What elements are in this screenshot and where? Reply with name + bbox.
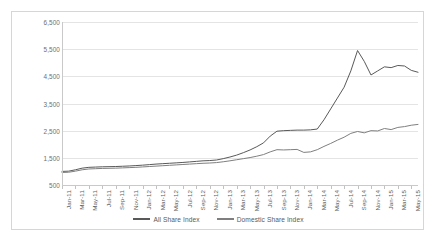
x-axis-tick-label: Jul-11 — [105, 190, 112, 207]
x-axis-tick-label: Nov-13 — [293, 190, 300, 211]
x-axis-tick-label: May-14 — [333, 190, 340, 211]
series-line-1 — [62, 51, 418, 172]
x-axis-tick — [116, 186, 117, 189]
x-axis-tick-label: May-13 — [253, 190, 260, 211]
x-axis-tick — [169, 186, 170, 189]
x-axis-tick — [317, 186, 318, 189]
x-axis-tick — [62, 186, 63, 189]
x-axis-tick — [371, 186, 372, 189]
x-axis-tick-label: Sep-13 — [280, 190, 287, 211]
x-axis-tick-label: May-12 — [172, 190, 179, 211]
y-axis: 6,5005,5004,5003,5002,5001,500500 — [18, 12, 60, 231]
x-axis-tick — [250, 186, 251, 189]
x-axis-tick — [102, 186, 103, 189]
x-axis-tick — [75, 186, 76, 189]
x-axis-tick — [358, 186, 359, 189]
x-axis-tick-label: Mar-12 — [159, 190, 166, 210]
chart-legend: All Share IndexDomestic Share Index — [12, 212, 425, 226]
y-axis-tick-label: 5,500 — [22, 46, 60, 53]
x-axis-tick-label: Jul-14 — [347, 190, 354, 207]
x-axis-tick-label: Sep-11 — [118, 190, 125, 210]
y-axis-tick-label: 3,500 — [22, 100, 60, 107]
x-axis-tick — [304, 186, 305, 189]
legend-line-icon — [217, 218, 234, 220]
y-axis-line — [62, 22, 63, 186]
x-axis-tick-label: Jul-12 — [186, 190, 193, 207]
x-axis-tick — [129, 186, 130, 189]
x-axis-tick — [183, 186, 184, 189]
x-axis-tick — [331, 186, 332, 189]
y-axis-tick-label: 4,500 — [22, 73, 60, 80]
x-axis-tick — [398, 186, 399, 189]
legend-item[interactable]: Domestic Share Index — [217, 216, 304, 223]
x-axis-tick — [264, 186, 265, 189]
x-axis-tick-label: Jan-13 — [226, 190, 233, 210]
legend-item-label: Domestic Share Index — [237, 216, 304, 223]
y-axis-tick-label: 6,500 — [22, 19, 60, 26]
x-axis-tick — [210, 186, 211, 189]
x-axis-tick-label: Nov-11 — [132, 190, 139, 210]
x-axis-tick-label: Jan-14 — [306, 190, 313, 210]
x-axis-tick-label: Sep-12 — [199, 190, 206, 211]
x-axis-tick-label: Jan-12 — [145, 190, 152, 210]
x-axis-tick-label: Sep-14 — [360, 190, 367, 211]
x-axis-tick — [237, 186, 238, 189]
x-axis-tick-label: Nov-12 — [212, 190, 219, 211]
y-axis-tick-label: 500 — [22, 182, 60, 189]
x-axis-tick — [223, 186, 224, 189]
x-axis-tick — [384, 186, 385, 189]
x-axis-tick-label: May-15 — [414, 190, 421, 211]
plot-area — [62, 22, 418, 185]
chart-plot-wrapper: 6,5005,5004,5003,5002,5001,500500 Jan-11… — [12, 12, 425, 231]
x-axis-tick-label: Jan-15 — [387, 190, 394, 210]
x-axis-tick-label: Nov-14 — [374, 190, 381, 211]
x-axis-tick — [290, 186, 291, 189]
x-axis-tick — [196, 186, 197, 189]
x-axis-tick-label: Mar-14 — [320, 190, 327, 210]
chart-container: 6,5005,5004,5003,5002,5001,500500 Jan-11… — [11, 11, 424, 230]
x-axis-tick-label: Mar-11 — [78, 190, 85, 210]
x-axis-tick-label: Jul-13 — [266, 190, 273, 207]
x-axis-tick — [143, 186, 144, 189]
series-layer — [62, 22, 418, 185]
x-axis-tick — [411, 186, 412, 189]
x-axis-tick-label: Mar-13 — [239, 190, 246, 210]
legend-line-icon — [133, 218, 150, 220]
x-axis-tick-label: May-11 — [91, 190, 98, 211]
x-axis-tick — [344, 186, 345, 189]
x-axis-tick — [277, 186, 278, 189]
y-axis-tick-label: 2,500 — [22, 127, 60, 134]
x-axis-tick-label: Jan-11 — [65, 190, 72, 209]
series-line-2 — [62, 124, 418, 172]
x-axis-tick-label: Mar-15 — [400, 190, 407, 210]
x-axis-tick — [156, 186, 157, 189]
legend-item-label: All Share Index — [153, 216, 199, 223]
x-axis-tick — [89, 186, 90, 189]
legend-item[interactable]: All Share Index — [133, 216, 199, 223]
y-axis-tick-label: 1,500 — [22, 154, 60, 161]
